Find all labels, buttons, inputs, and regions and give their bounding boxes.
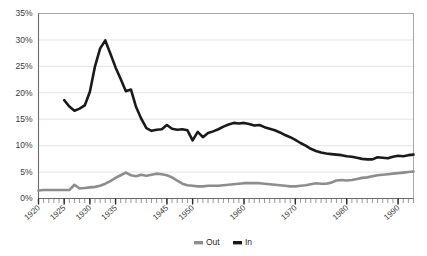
y-tick-label: 25% [15,61,32,71]
x-tick-label: 1980 [331,203,351,222]
x-tick-label: 1945 [151,203,171,222]
y-axis-tick-labels: 35%30%25%20%15%10%5%0% [15,8,32,203]
data-series-layer [39,40,414,190]
gridlines [39,14,414,173]
y-tick-label: 35% [15,8,32,18]
legend-swatch [194,241,203,244]
x-tick-label: 1925 [48,203,68,222]
y-tick-label: 30% [15,35,32,45]
x-tick-label: 1920 [23,203,43,222]
x-tick-label: 1990 [382,203,402,222]
x-tick-label: 1960 [228,203,248,222]
series-line-out [39,172,414,191]
legend-item-out: Out [194,237,220,247]
legend-swatch [233,241,242,244]
chart-canvas: 35%30%25%20%15%10%5%0% 19201925193019351… [0,0,427,256]
x-tick-label: 1935 [100,203,120,222]
series-line-in [64,40,413,159]
y-tick-label: 10% [15,140,32,150]
legend-label: Out [206,237,220,247]
y-tick-label: 20% [15,88,32,98]
legend-label: In [245,237,252,247]
plot-area-border [39,14,414,199]
x-tick-label: 1930 [74,203,94,222]
plot-border [39,14,414,199]
x-tick-label: 1970 [279,203,299,222]
y-tick-label: 5% [20,167,33,177]
legend-item-in: In [233,237,252,247]
line-chart: 35%30%25%20%15%10%5%0% 19201925193019351… [0,0,427,256]
x-axis-minor-ticks [39,199,414,204]
y-tick-label: 15% [15,114,32,124]
x-axis-tick-labels: 1920192519301935194519501960197019801990 [23,203,402,222]
x-tick-label: 1950 [177,203,197,222]
y-tick-label: 0% [20,193,33,203]
chart-legend: OutIn [194,237,252,247]
